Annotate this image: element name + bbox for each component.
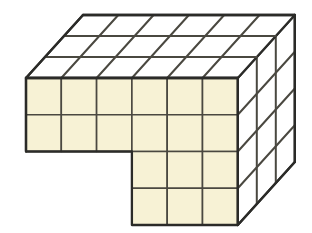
front-face-cell	[26, 78, 61, 115]
figure-canvas: Isometric cube stack solid A staircase-s…	[0, 0, 312, 233]
front-face-cell	[203, 78, 238, 115]
front-face-cell	[132, 78, 167, 115]
front-face-cell	[61, 78, 96, 115]
front-face-cell	[26, 115, 61, 152]
front-face-cell	[167, 152, 202, 189]
cube-stack-diagram: Isometric cube stack solid A staircase-s…	[0, 0, 312, 233]
front-face-cell	[97, 115, 132, 152]
front-face-cell	[132, 188, 167, 225]
front-face-cell	[97, 78, 132, 115]
front-face-cell	[167, 188, 202, 225]
front-face-cell	[167, 78, 202, 115]
front-face-cell	[203, 152, 238, 189]
front-face-cell	[203, 188, 238, 225]
front-face-cell	[203, 115, 238, 152]
front-face-cell	[167, 115, 202, 152]
front-face-cell	[132, 115, 167, 152]
front-face-cell	[132, 152, 167, 189]
front-face-cell	[61, 115, 96, 152]
